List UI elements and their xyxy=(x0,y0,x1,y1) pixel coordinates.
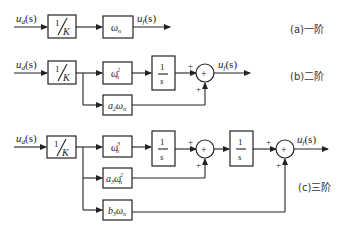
numerator: 1 xyxy=(238,137,243,147)
denominator-k: K xyxy=(61,147,70,158)
output-label: uf(s) xyxy=(218,58,237,72)
sign-plus: + xyxy=(266,137,271,147)
denominator-s: s xyxy=(160,76,164,86)
panel-label-a: (a)一阶 xyxy=(290,23,324,35)
panel-b-second-order: ud(s) 1 K ω2n 1 s a2ωn + + + uf(s) (b)二阶 xyxy=(14,56,324,115)
numerator: 1 xyxy=(160,62,165,72)
numerator: 1 xyxy=(160,137,165,147)
input-label: ud(s) xyxy=(16,58,37,72)
sign-plus: + xyxy=(276,160,281,170)
numerator: 1 xyxy=(55,64,60,74)
panel-label-b: (b)二阶 xyxy=(290,70,324,82)
input-label: ud(s) xyxy=(16,12,37,26)
a3-omega-n-squared-text: a3ω2n xyxy=(106,172,123,185)
output-label: uf(s) xyxy=(137,12,156,26)
omega-n-cubed-text: ω3n xyxy=(111,141,120,154)
output-label: uf(s) xyxy=(297,133,316,147)
denominator-k: K xyxy=(62,72,71,83)
omega-n-squared-text: ω2n xyxy=(111,67,120,80)
sign-plus: + xyxy=(196,160,201,170)
denominator-s: s xyxy=(238,152,242,162)
input-label: ud(s) xyxy=(16,132,37,146)
panel-c-third-order: ud(s) 1 K ω3n 1 s a3ω2n b3ωn + + + xyxy=(14,131,331,220)
panel-a-first-order: ud(s) 1 K ωn uf(s) (a)一阶 xyxy=(14,12,324,38)
denominator-k: K xyxy=(62,26,71,37)
block-diagram: ud(s) 1 K ωn uf(s) (a)一阶 ud(s) 1 K ω2n 1 xyxy=(0,0,341,238)
numerator: 1 xyxy=(55,18,60,28)
sign-plus: + xyxy=(188,137,193,147)
numerator: 1 xyxy=(54,139,59,149)
panel-label-c: (c)三阶 xyxy=(298,181,331,193)
sign-plus: + xyxy=(188,61,193,71)
summer-plus: + xyxy=(201,144,207,155)
summer-plus: + xyxy=(281,144,287,155)
denominator-s: s xyxy=(160,152,164,162)
summer-plus: + xyxy=(201,68,207,79)
sign-plus: + xyxy=(196,84,201,94)
